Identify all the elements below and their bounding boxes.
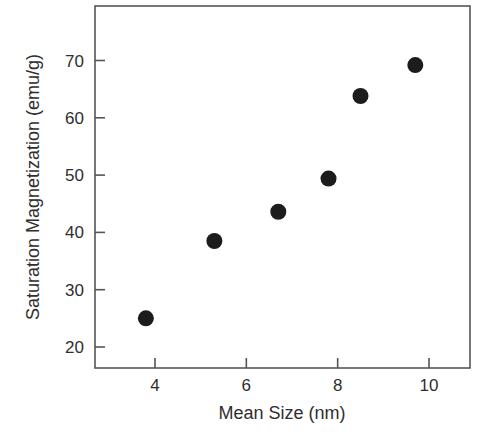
y-axis-title: Saturation Magnetization (emu/g) (23, 54, 43, 320)
x-tick-label: 8 (333, 376, 342, 395)
data-point (321, 171, 337, 187)
y-tick-label: 50 (65, 166, 84, 185)
data-point (206, 233, 222, 249)
x-tick-label: 6 (242, 376, 251, 395)
x-axis-ticks: 46810 (150, 358, 438, 395)
data-point (138, 310, 154, 326)
y-tick-label: 70 (65, 52, 84, 71)
x-tick-label: 10 (420, 376, 439, 395)
y-axis-ticks: 203040506070 (65, 52, 105, 358)
y-tick-label: 30 (65, 281, 84, 300)
data-points (138, 57, 423, 326)
data-point (270, 204, 286, 220)
data-point (353, 88, 369, 104)
y-tick-label: 40 (65, 223, 84, 242)
y-tick-label: 60 (65, 109, 84, 128)
scatter-chart: 46810 203040506070 Mean Size (nm) Satura… (0, 0, 487, 446)
x-tick-label: 4 (150, 376, 159, 395)
data-point (407, 57, 423, 73)
x-axis-title: Mean Size (nm) (218, 403, 345, 423)
y-tick-label: 20 (65, 338, 84, 357)
